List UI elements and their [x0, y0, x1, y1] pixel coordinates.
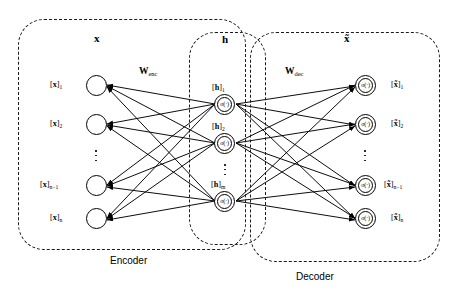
output-node-n[interactable]: σ(·)	[355, 208, 376, 229]
output-node-n-1[interactable]: σ(·)	[355, 175, 376, 196]
hidden-layer-ellipsis	[224, 164, 226, 178]
autoencoder-diagram: x h x̃ Wenc Wdec [x]1 [x]2 [x]n−1 [x]n σ…	[0, 0, 450, 292]
input-node-1[interactable]	[86, 75, 107, 96]
output-node-2[interactable]: σ(·)	[355, 114, 376, 135]
hidden-node-m[interactable]: σ(·)	[214, 191, 235, 212]
input-node-label-n: [x]n	[50, 214, 62, 222]
encoder-section-label: Encoder	[110, 256, 147, 266]
output-header-label: x̃	[344, 33, 350, 44]
output-node-label-n: [x̃]n	[391, 214, 403, 222]
encoder-weight-symbol: W	[139, 66, 149, 76]
input-layer-ellipsis	[95, 150, 97, 164]
decoder-section-label: Decoder	[296, 272, 334, 282]
output-node-activation-1: σ(·)	[358, 78, 373, 93]
hidden-node-activation-1: σ(·)	[217, 97, 232, 112]
hidden-node-activation-m: σ(·)	[217, 194, 232, 209]
hidden-node-2[interactable]: σ(·)	[214, 133, 235, 154]
decoder-weight-subscript: dec	[295, 70, 304, 77]
output-node-activation-n-1: σ(·)	[358, 178, 373, 193]
output-node-1[interactable]: σ(·)	[355, 75, 376, 96]
hidden-node-activation-2: σ(·)	[217, 136, 232, 151]
input-node-label-1: [x]1	[50, 81, 62, 89]
input-node-label-2: [x]2	[50, 120, 62, 128]
hidden-header-label: h	[222, 34, 228, 45]
input-header-label: x	[94, 33, 100, 44]
decoder-weight-label: Wdec	[285, 67, 303, 77]
input-node-n[interactable]	[86, 208, 107, 229]
hidden-node-label-m: [h]m	[211, 181, 225, 189]
encoder-weight-label: Wenc	[139, 67, 157, 77]
output-node-label-2: [x̃]2	[391, 120, 403, 128]
encoder-weight-subscript: enc	[149, 70, 158, 77]
output-node-activation-n: σ(·)	[358, 211, 373, 226]
output-node-label-1: [x̃]1	[391, 81, 403, 89]
output-node-label-n-1: [x̃]n−1	[384, 181, 402, 189]
decoder-group-box	[250, 32, 440, 262]
decoder-weight-symbol: W	[285, 66, 295, 76]
output-node-activation-2: σ(·)	[358, 117, 373, 132]
hidden-node-label-1: [h]1	[212, 84, 225, 92]
input-node-2[interactable]	[86, 114, 107, 135]
input-node-n-1[interactable]	[86, 175, 107, 196]
hidden-node-label-2: [h]2	[212, 123, 225, 131]
input-node-label-n-1: [x]n−1	[40, 181, 58, 189]
output-layer-ellipsis	[364, 150, 366, 164]
hidden-node-1[interactable]: σ(·)	[214, 94, 235, 115]
